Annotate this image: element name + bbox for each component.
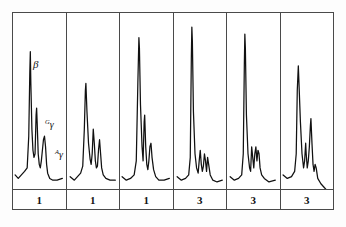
trace-panel-6 <box>281 13 334 189</box>
trace-curve-5 <box>227 13 280 189</box>
trace-panel-1: β Gγ Aγ <box>13 13 67 189</box>
peak-label-a-gamma: Aγ <box>55 149 63 160</box>
peak-label-a-gamma-symbol: γ <box>59 149 63 160</box>
group-label-2: 1 <box>67 190 121 209</box>
trace-path-3 <box>122 38 169 181</box>
chromatogram-figure: β Gγ Aγ <box>0 0 346 227</box>
trace-curve-3 <box>120 13 173 189</box>
peak-label-beta: β <box>33 59 38 70</box>
trace-path-6 <box>283 66 327 189</box>
trace-path-5 <box>230 34 275 182</box>
group-label-strip: 1 1 1 3 3 3 <box>12 190 334 210</box>
trace-path-2 <box>70 83 115 180</box>
group-label-1: 1 <box>13 190 67 209</box>
peak-label-g-gamma-symbol: γ <box>50 119 54 130</box>
trace-curve-2 <box>67 13 120 189</box>
trace-path-1 <box>15 52 62 180</box>
trace-panel-2 <box>67 13 121 189</box>
trace-path-4 <box>177 27 222 182</box>
group-label-4: 3 <box>174 190 228 209</box>
trace-curve-1 <box>13 13 66 189</box>
group-label-6: 3 <box>281 190 334 209</box>
trace-panel-5 <box>227 13 281 189</box>
peak-label-g-gamma: Gγ <box>45 119 54 130</box>
trace-panel-4 <box>174 13 228 189</box>
panel-frame: β Gγ Aγ <box>12 12 334 190</box>
trace-curve-6 <box>281 13 334 189</box>
group-label-5: 3 <box>227 190 281 209</box>
trace-panel-3 <box>120 13 174 189</box>
group-label-3: 1 <box>120 190 174 209</box>
trace-curve-4 <box>174 13 227 189</box>
